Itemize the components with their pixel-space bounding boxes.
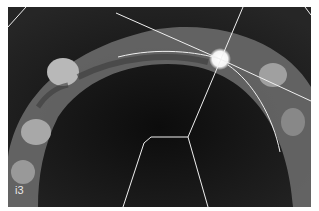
ct-scan-image: i3 [8, 7, 311, 207]
tooth [47, 58, 79, 86]
panel-label: i3 [15, 184, 24, 196]
tooth [281, 108, 305, 136]
ct-scan-graphic [8, 7, 311, 207]
tooth [21, 119, 51, 145]
tooth [11, 160, 35, 184]
